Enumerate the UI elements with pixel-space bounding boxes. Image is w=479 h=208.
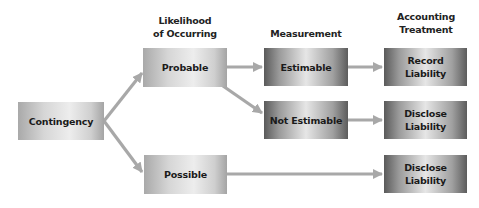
arrow-contingency-to-probable	[104, 73, 142, 121]
header-measurement-label: Measurement	[260, 27, 352, 40]
node-disclose-liability-1: Disclose Liability	[384, 101, 467, 139]
node-disclose-1-line2: Liability	[405, 120, 446, 133]
node-probable: Probable	[143, 48, 227, 87]
node-not-estimable-label: Not Estimable	[270, 114, 342, 127]
node-probable-label: Probable	[162, 61, 208, 74]
header-accounting-line2: Treatment	[380, 23, 472, 36]
header-accounting-line1: Accounting	[380, 10, 472, 23]
header-likelihood-line2: of Occurring	[140, 27, 230, 40]
node-contingency: Contingency	[18, 102, 104, 140]
header-measurement: Measurement	[260, 27, 352, 40]
header-likelihood-line1: Likelihood	[140, 14, 230, 27]
node-possible-label: Possible	[164, 168, 207, 181]
header-accounting-treatment: Accounting Treatment	[380, 10, 472, 36]
node-not-estimable: Not Estimable	[264, 101, 348, 139]
node-disclose-2-line2: Liability	[405, 174, 446, 187]
node-estimable: Estimable	[264, 48, 348, 86]
node-possible: Possible	[144, 155, 227, 194]
node-record-liability-line2: Liability	[405, 67, 446, 80]
header-likelihood: Likelihood of Occurring	[140, 14, 230, 40]
arrow-probable-to-not-estimable	[223, 86, 262, 113]
node-disclose-liability-2: Disclose Liability	[384, 155, 467, 193]
node-record-liability-line1: Record	[407, 54, 443, 67]
node-estimable-label: Estimable	[281, 61, 332, 74]
node-disclose-2-line1: Disclose	[404, 161, 447, 174]
node-record-liability: Record Liability	[384, 48, 467, 86]
arrow-contingency-to-possible	[104, 121, 142, 172]
node-contingency-label: Contingency	[29, 115, 93, 128]
node-disclose-1-line1: Disclose	[404, 107, 447, 120]
